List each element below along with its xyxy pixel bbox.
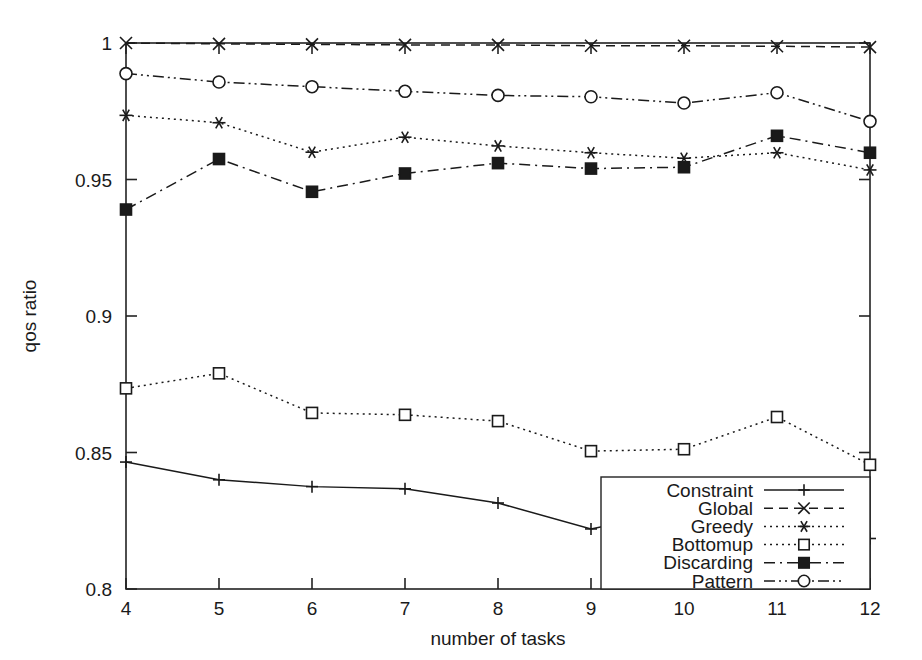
legend-label-pattern: Pattern: [692, 571, 753, 592]
x-tick-label: 5: [214, 598, 225, 619]
y-tick-label: 0.8: [86, 579, 112, 600]
marker-open-circle: [678, 97, 690, 109]
x-tick-label: 11: [767, 598, 787, 619]
x-tick-label: 12: [859, 598, 880, 619]
y-tick-label: 0.85: [75, 443, 112, 464]
marker-open-square: [307, 407, 318, 418]
marker-open-circle: [492, 89, 504, 101]
marker-open-square: [865, 459, 876, 470]
marker-open-square: [799, 539, 809, 549]
marker-open-circle: [798, 575, 809, 586]
marker-open-circle: [399, 85, 411, 97]
marker-open-circle: [585, 91, 597, 103]
legend: ConstraintGlobalGreedyBottomupDiscarding…: [601, 477, 870, 592]
marker-filled-square: [865, 147, 876, 158]
marker-open-square: [493, 416, 504, 427]
marker-open-square: [772, 412, 783, 423]
marker-filled-square: [772, 130, 783, 141]
marker-filled-square: [799, 558, 809, 568]
x-tick-label: 4: [121, 598, 132, 619]
marker-open-square: [121, 383, 132, 394]
y-tick-label: 0.9: [86, 306, 112, 327]
marker-open-square: [586, 446, 597, 457]
x-tick-label: 6: [307, 598, 318, 619]
marker-open-circle: [306, 81, 318, 93]
qos-ratio-line-chart: 0.80.850.90.951456789101112number of tas…: [0, 0, 922, 660]
marker-filled-square: [214, 154, 225, 165]
marker-open-square: [214, 368, 225, 379]
x-tick-label: 10: [673, 598, 694, 619]
marker-filled-square: [586, 163, 597, 174]
y-tick-label: 0.95: [75, 170, 112, 191]
marker-open-square: [400, 409, 411, 420]
y-axis-title: qos ratio: [19, 280, 40, 353]
marker-open-square: [679, 444, 690, 455]
marker-open-circle: [120, 68, 132, 80]
marker-open-circle: [213, 76, 225, 88]
x-tick-label: 7: [400, 598, 411, 619]
marker-filled-square: [121, 204, 132, 215]
x-tick-label: 9: [586, 598, 597, 619]
x-axis-title: number of tasks: [430, 628, 565, 649]
marker-filled-square: [400, 168, 411, 179]
marker-filled-square: [307, 186, 318, 197]
y-tick-label: 1: [101, 33, 112, 54]
x-tick-label: 8: [493, 598, 504, 619]
marker-filled-square: [493, 158, 504, 169]
chart-figure: 0.80.850.90.951456789101112number of tas…: [0, 0, 922, 660]
marker-open-circle: [771, 87, 783, 99]
marker-filled-square: [679, 162, 690, 173]
marker-open-circle: [864, 115, 876, 127]
